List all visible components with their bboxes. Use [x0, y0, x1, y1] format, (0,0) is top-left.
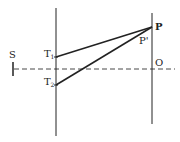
label-point-p: P — [155, 21, 163, 32]
label-slit2-sub: 2 — [51, 81, 55, 88]
label-slit1-sub: 1 — [51, 53, 55, 60]
label-point-p-prime: P' — [139, 35, 148, 46]
ray-t1-to-p — [56, 27, 152, 57]
label-origin: O — [155, 57, 163, 68]
label-source: S — [9, 49, 16, 60]
ray-t2-to-p — [56, 27, 152, 85]
double-slit-diagram: S T 1 T 2 P P' O — [0, 0, 180, 142]
